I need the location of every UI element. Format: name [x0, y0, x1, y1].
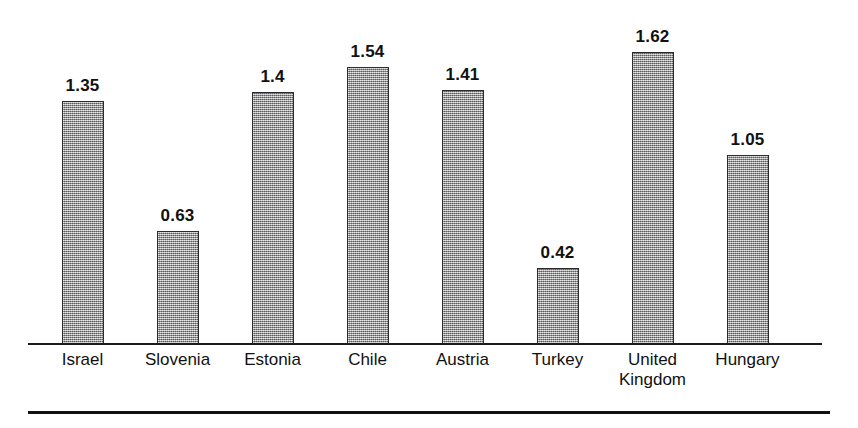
bar-value-label: 1.62 [636, 28, 670, 45]
bar-chart-figure: 1.350.631.41.541.410.421.621.05 IsraelSl… [0, 0, 858, 428]
category-label-austria: Austria [415, 350, 510, 370]
bar-value-label: 1.4 [260, 68, 284, 85]
x-axis-line [28, 343, 822, 345]
category-label-slovenia: Slovenia [130, 350, 225, 370]
bar-slot: 1.41 [415, 0, 510, 345]
category-label-estonia: Estonia [225, 350, 320, 370]
bar-column[interactable]: 1.54 [347, 67, 389, 344]
bar-slot: 1.54 [320, 0, 415, 345]
bar[interactable] [632, 52, 674, 344]
bar-column[interactable]: 1.4 [252, 92, 294, 344]
bar-slot: 0.63 [130, 0, 225, 345]
bar[interactable] [157, 231, 199, 344]
bar-slot: 0.42 [510, 0, 605, 345]
bar-value-label: 1.05 [731, 131, 765, 148]
bar-value-label: 1.35 [66, 77, 100, 94]
category-label-israel: Israel [35, 350, 130, 370]
category-axis-labels: IsraelSloveniaEstoniaChileAustriaTurkeyU… [28, 350, 830, 400]
category-label-chile: Chile [320, 350, 415, 370]
bar-column[interactable]: 0.63 [157, 231, 199, 344]
bar-slot: 1.62 [605, 0, 700, 345]
category-label-united-kingdom: United Kingdom [605, 350, 700, 390]
category-label-turkey: Turkey [510, 350, 605, 370]
bar-value-label: 1.54 [351, 43, 385, 60]
bar[interactable] [252, 92, 294, 344]
bar[interactable] [347, 67, 389, 344]
bottom-rule [28, 411, 830, 414]
bar-column[interactable]: 0.42 [537, 268, 579, 344]
bar[interactable] [727, 155, 769, 344]
bar-column[interactable]: 1.62 [632, 52, 674, 344]
bar-slot: 1.4 [225, 0, 320, 345]
bar-column[interactable]: 1.35 [62, 101, 104, 344]
category-label-hungary: Hungary [700, 350, 795, 370]
bar-column[interactable]: 1.41 [442, 90, 484, 344]
bar-slot: 1.05 [700, 0, 795, 345]
bar-column[interactable]: 1.05 [727, 155, 769, 344]
bar-slot: 1.35 [35, 0, 130, 345]
bar[interactable] [62, 101, 104, 344]
plot-area: 1.350.631.41.541.410.421.621.05 [28, 0, 830, 345]
bar-value-label: 1.41 [446, 66, 480, 83]
bar-value-label: 0.63 [161, 207, 195, 224]
bar[interactable] [537, 268, 579, 344]
bar-value-label: 0.42 [541, 244, 575, 261]
bar[interactable] [442, 90, 484, 344]
